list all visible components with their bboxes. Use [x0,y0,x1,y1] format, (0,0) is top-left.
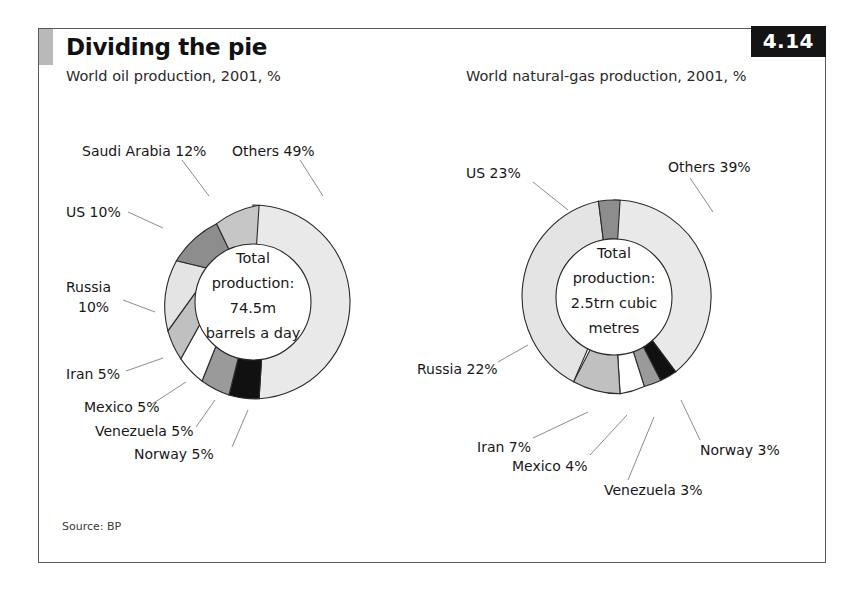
left-center-line-1: Total [235,250,270,266]
label-russia-gas: Russia 22% [417,361,498,377]
right-center-line-4: metres [589,320,640,336]
label-iran-gas: Iran 7% [477,439,531,455]
leader-us-oil [128,212,163,228]
label-mexico-gas: Mexico 4% [512,458,588,474]
label-venezuela-gas: Venezuela 3% [604,482,703,498]
leader-venezuela-oil [196,400,215,427]
label-others-oil: Others 49% [232,143,315,159]
leader-norway-gas [681,400,700,440]
label-us-gas: US 23% [466,165,521,181]
right-donut-chart: Total production: 2.5trn cubic metres Ot… [417,159,780,498]
label-russia-oil-line1: Russia [66,279,111,295]
leader-mexico-gas [590,415,627,455]
label-russia-oil-line2: 10% [78,299,109,315]
label-mexico-oil: Mexico 5% [84,399,160,415]
label-norway-gas: Norway 3% [700,442,780,458]
figure-container: 4.14 Dividing the pie World oil producti… [0,0,860,595]
label-saudi-arabia-oil: Saudi Arabia 12% [82,143,206,159]
left-center-line-3: 74.5m [230,300,276,316]
left-center-line-2: production: [212,275,295,291]
leader-others-gas [690,178,713,212]
leader-us-gas [533,182,568,210]
left-donut-chart: Total production: 74.5m barrels a day Ot… [66,143,350,462]
leader-russia-gas [498,345,528,362]
leader-others-oil [300,160,323,196]
right-center-line-1: Total [596,245,631,261]
leader-saudi-oil [182,160,209,196]
donut-charts: Total production: 74.5m barrels a day Ot… [0,0,860,595]
leader-norway-oil [232,410,248,447]
label-iran-oil: Iran 5% [66,366,120,382]
label-venezuela-oil: Venezuela 5% [95,423,194,439]
leader-iran-oil [126,358,163,371]
right-center-line-2: production: [573,270,656,286]
label-us-oil: US 10% [66,204,121,220]
label-norway-oil: Norway 5% [134,446,214,462]
leader-russia-oil [123,300,155,312]
left-center-line-4: barrels a day [206,325,301,341]
right-center-line-3: 2.5trn cubic [571,295,658,311]
leader-iran-gas [533,412,588,438]
label-others-gas: Others 39% [668,159,751,175]
leader-venezuela-gas [628,417,654,480]
